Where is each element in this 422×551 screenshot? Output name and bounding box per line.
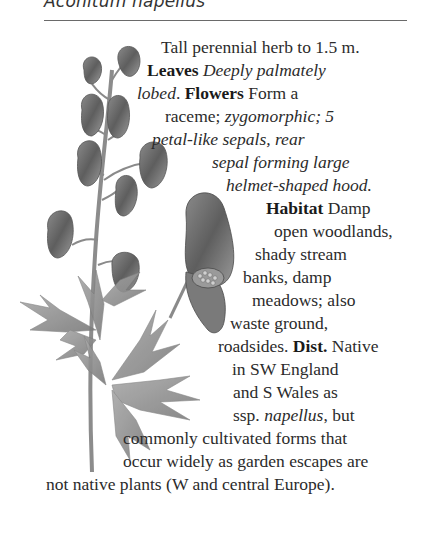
description-line: Habitat Damp: [266, 197, 371, 219]
description-line: and S Wales as: [233, 381, 338, 403]
description-line: shady stream: [255, 243, 347, 265]
description-text: waste ground,: [230, 313, 328, 333]
description-text: Tall perennial herb to 1.5 m.: [161, 37, 360, 57]
description-text: not native plants (W and central Europe)…: [46, 474, 335, 494]
description-line: banks, damp: [243, 266, 331, 288]
description-text: occur widely as garden escapes are: [123, 451, 368, 471]
description-text: Form a: [244, 83, 298, 103]
description-text: Damp: [323, 198, 370, 218]
description-text: open woodlands,: [274, 221, 393, 241]
description-text: banks, damp: [243, 267, 331, 287]
description-line: lobed. Flowers Form a: [137, 82, 298, 104]
description-line: raceme; zygomorphic; 5: [165, 105, 334, 127]
description-text: commonly cultivated forms that: [123, 428, 347, 448]
description-text: in SW England: [232, 359, 339, 379]
description-text: sepal forming large: [212, 152, 349, 172]
description-line: petal-like sepals, rear: [152, 128, 304, 150]
description-line: helmet-shaped hood.: [226, 174, 372, 196]
species-heading: Aconitum napellus: [44, 0, 205, 11]
description-text: napellus: [264, 405, 323, 425]
description-line: commonly cultivated forms that: [123, 427, 347, 449]
description-text: raceme;: [165, 106, 225, 126]
section-label: Flowers: [185, 83, 244, 103]
description-line: in SW England: [232, 358, 339, 380]
description-text: shady stream: [255, 244, 347, 264]
description-line: waste ground,: [230, 312, 328, 334]
description-line: occur widely as garden escapes are: [123, 450, 368, 472]
section-label: Leaves: [147, 60, 199, 80]
description-text: roadsides.: [218, 336, 293, 356]
section-label: Habitat: [266, 198, 323, 218]
description-text: Native: [327, 336, 378, 356]
description-line: sepal forming large: [212, 151, 349, 173]
description-text: lobed: [137, 83, 176, 103]
description-text: petal-like sepals, rear: [152, 129, 304, 149]
description-line: roadsides. Dist. Native: [218, 335, 378, 357]
description-line: open woodlands,: [274, 220, 393, 242]
description-text: ssp.: [233, 405, 264, 425]
description-line: Tall perennial herb to 1.5 m.: [161, 36, 360, 58]
description-text: Deeply palmately: [199, 60, 326, 80]
description-line: meadows; also: [252, 289, 356, 311]
description-text: zygomorphic; 5: [225, 106, 334, 126]
description-text: meadows; also: [252, 290, 356, 310]
description-line: Leaves Deeply palmately: [147, 59, 326, 81]
section-label: Dist.: [293, 336, 328, 356]
description-text: and S Wales as: [233, 382, 338, 402]
description-text: helmet-shaped hood.: [226, 175, 372, 195]
description-line: ssp. napellus, but: [233, 404, 355, 426]
description-text: , but: [323, 405, 354, 425]
description-line: not native plants (W and central Europe)…: [46, 473, 335, 495]
heading-divider: [44, 20, 407, 21]
description-text: .: [176, 83, 185, 103]
